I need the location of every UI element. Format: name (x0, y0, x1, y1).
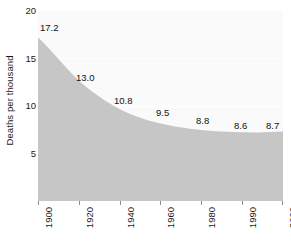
value-label-2000: 8.7 (266, 121, 279, 131)
value-label-1900: 17.2 (40, 23, 59, 33)
x-tick-mark-1960 (160, 201, 161, 205)
y-tick-label-15: 15 (20, 54, 36, 64)
x-tick-mark-1980 (201, 201, 202, 205)
y-axis-title-text: Deaths per thousand (4, 55, 15, 145)
x-tick-mark-1990 (242, 201, 243, 205)
plot-area: 17.2 13.0 10.8 9.5 8.8 8.6 8.7 (38, 11, 283, 201)
value-label-1960: 9.5 (156, 108, 169, 118)
x-tick-mark-2000 (282, 201, 283, 205)
value-label-1990: 8.6 (234, 121, 247, 131)
y-tick-label-10: 10 (20, 101, 36, 111)
x-tick-mark-1920 (79, 201, 80, 205)
x-tick-label-1990: 1990 (247, 207, 259, 247)
y-tick-label-20: 20 (20, 6, 36, 16)
value-label-1940: 10.8 (114, 96, 133, 106)
x-axis: 1900 1920 1940 1960 1980 1990 2000 (38, 201, 283, 247)
y-axis-title: Deaths per thousand (0, 0, 18, 200)
x-tick-label-1900: 1900 (43, 207, 55, 247)
plot-svg (38, 11, 283, 201)
value-label-1980: 8.8 (196, 116, 209, 126)
x-tick-label-1940: 1940 (125, 207, 137, 247)
x-tick-mark-1900 (38, 201, 39, 205)
value-label-1920: 13.0 (76, 73, 95, 83)
x-tick-label-1960: 1960 (165, 207, 177, 247)
y-axis-tick-labels: 20 15 10 5 (18, 0, 36, 247)
x-tick-label-2000: 2000 (287, 207, 291, 247)
area-chart: Deaths per thousand 20 15 10 5 17.2 13.0… (0, 0, 291, 247)
x-tick-label-1980: 1980 (206, 207, 218, 247)
y-tick-label-5: 5 (20, 149, 36, 159)
x-tick-mark-1940 (120, 201, 121, 205)
x-tick-label-1920: 1920 (84, 207, 96, 247)
